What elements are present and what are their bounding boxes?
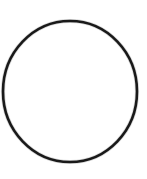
circle-outline-figure [0, 0, 147, 179]
circle-outline-icon [3, 21, 137, 162]
image-canvas [0, 0, 147, 179]
